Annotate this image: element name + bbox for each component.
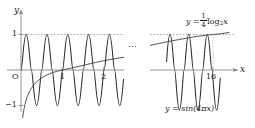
sine-curve-equation-label: y = sin(4πx) xyxy=(165,105,214,113)
y-tick-label-minus1: −1 xyxy=(5,101,17,109)
log-eq-denominator: 4 xyxy=(200,21,206,28)
origin-label: O xyxy=(12,73,19,81)
y-axis-label: y xyxy=(14,6,19,15)
log-eq-function: log xyxy=(207,17,220,26)
log-eq-argument: x xyxy=(223,17,228,26)
math-figure: y x O 1 −1 1 2 16 ⋯ y =14log2x y = sin(4… xyxy=(0,0,255,128)
log-curve-left xyxy=(23,57,124,118)
x-tick-label-16: 16 xyxy=(206,73,216,81)
log-curve-equation-label: y =14log2x xyxy=(186,13,228,29)
axis-break-ellipsis: ⋯ xyxy=(128,43,138,52)
log-eq-fraction: 14 xyxy=(200,13,206,29)
y-tick-label-1: 1 xyxy=(12,30,17,38)
y-axis-arrowhead xyxy=(19,10,23,15)
log-eq-lhs: y = xyxy=(186,17,200,26)
x-axis-label: x xyxy=(240,65,245,74)
x-axis-arrowhead xyxy=(233,68,238,72)
x-tick-label-2: 2 xyxy=(101,73,106,81)
x-tick-label-1: 1 xyxy=(60,73,65,81)
